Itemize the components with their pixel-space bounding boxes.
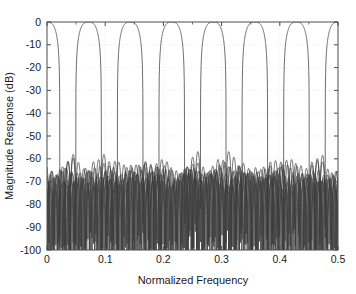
x-tick-label: 0.4 [272, 253, 287, 265]
y-tick-label: -70 [26, 175, 41, 187]
y-tick-label: -90 [26, 221, 41, 233]
magnitude-response-chart: 00.10.20.30.40.5 0-10-20-30-40-50-60-70-… [0, 0, 356, 294]
figure-canvas: 00.10.20.30.40.5 0-10-20-30-40-50-60-70-… [0, 0, 356, 294]
y-tick-label: 0 [35, 16, 41, 28]
y-tick-label: -50 [26, 130, 41, 142]
x-tick-label: 0.3 [214, 253, 229, 265]
x-tick-label: 0.5 [331, 253, 346, 265]
y-axis-title: Magnitude Response (dB) [3, 72, 15, 200]
y-tick-label: -100 [20, 244, 41, 256]
x-tick-label: 0.2 [156, 253, 171, 265]
y-tick-label: -80 [26, 198, 41, 210]
y-tick-label: -30 [26, 84, 41, 96]
y-tick-label: -10 [26, 38, 41, 50]
x-axis-title: Normalized Frequency [138, 274, 249, 286]
x-tick-label: 0.1 [98, 253, 113, 265]
y-tick-label: -60 [26, 152, 41, 164]
y-tick-label: -40 [26, 107, 41, 119]
x-tick-label: 0 [44, 253, 50, 265]
y-tick-label: -20 [26, 61, 41, 73]
